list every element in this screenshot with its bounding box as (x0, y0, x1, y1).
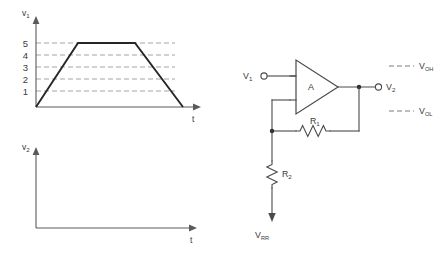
feedback-resistor-symbol (296, 126, 330, 137)
output-plot-y-axis (33, 147, 40, 228)
figure-svg: 5 4 3 2 1 v1 t v2 t (0, 0, 445, 254)
comparator-circuit: A V1 (243, 60, 433, 241)
output-plot-x-axis (36, 225, 197, 232)
figure-root: 5 4 3 2 1 v1 t v2 t (0, 0, 445, 254)
reference-arrowhead (268, 213, 275, 222)
input-label: V1 (243, 71, 253, 82)
input-plot-x-axis-label: t (192, 114, 195, 124)
tick-label-2: 2 (23, 74, 28, 85)
output-terminal-circle (375, 84, 381, 90)
input-waveform-plot: 5 4 3 2 1 v1 t (22, 8, 201, 124)
output-waveform-plot: v2 t (22, 142, 197, 245)
reference-voltage-label: VRR (255, 230, 269, 241)
input-terminal-circle (261, 73, 267, 79)
ground-resistor-label: R2 (282, 169, 292, 180)
tick-label-5: 5 (23, 38, 28, 49)
voh-label: VOH (419, 61, 433, 72)
input-plot-y-axis-label: v1 (22, 8, 30, 19)
x-axis-arrowhead (193, 104, 201, 111)
vol-label: VOL (419, 106, 432, 117)
amplifier-triangle (296, 60, 338, 114)
tick-label-1: 1 (23, 86, 28, 97)
output-label: V2 (386, 82, 396, 93)
feedback-resistor-label: R1 (310, 116, 320, 127)
input-plot-y-axis (33, 16, 40, 107)
input-plot-tick-labels: 5 4 3 2 1 (23, 38, 28, 97)
input-signal-trace (36, 43, 183, 107)
tick-label-4: 4 (23, 50, 28, 61)
output-y-axis-arrowhead (33, 147, 40, 155)
input-plot-x-axis (36, 104, 201, 111)
y-axis-arrowhead (33, 16, 40, 24)
output-x-axis-arrowhead (189, 225, 197, 232)
output-plot-x-axis-label: t (190, 235, 193, 245)
output-plot-y-axis-label: v2 (22, 142, 30, 153)
tick-label-3: 3 (23, 62, 28, 73)
ground-resistor-symbol (267, 161, 277, 188)
output-level-references: VOH VOL (389, 61, 433, 117)
amplifier-label: A (308, 82, 314, 92)
